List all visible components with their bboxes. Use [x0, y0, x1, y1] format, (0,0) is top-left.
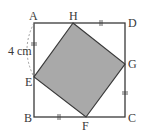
label-g: G	[128, 57, 137, 71]
label-d: D	[128, 16, 137, 30]
label-h: H	[69, 9, 78, 23]
label-c: C	[128, 111, 136, 125]
label-e: E	[25, 75, 32, 89]
label-a: A	[29, 9, 38, 23]
label-b: B	[24, 111, 32, 125]
shaded-square-efgh	[34, 23, 125, 117]
label-f: F	[82, 119, 89, 133]
geometry-diagram: A H D G E B C F 4 cm	[0, 0, 147, 134]
measurement-label: 4 cm	[8, 44, 32, 58]
